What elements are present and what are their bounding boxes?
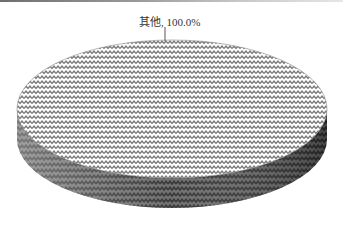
data-label-other: 其他, 100.0% xyxy=(139,13,200,29)
pie-chart-3d xyxy=(0,0,343,226)
pie-slice-other[interactable] xyxy=(17,40,327,178)
